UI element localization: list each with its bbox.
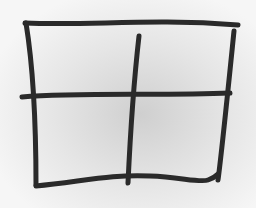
left-edge xyxy=(26,23,36,185)
sketch-canvas xyxy=(0,0,256,208)
middle-horizontal xyxy=(22,93,230,97)
top-edge xyxy=(25,22,238,25)
right-edge xyxy=(218,31,234,180)
grid-sketch xyxy=(0,0,256,208)
middle-vertical xyxy=(128,36,139,183)
